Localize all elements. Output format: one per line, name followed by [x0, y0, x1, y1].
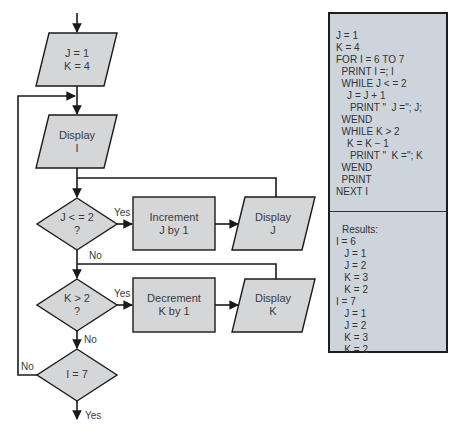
code-line: K = K − 1 [336, 138, 389, 149]
code-line: PRINT [336, 174, 372, 185]
result-line: K = 3 [336, 332, 368, 343]
code-line: NEXT I [336, 186, 368, 197]
edge-label-i-no: No [21, 361, 34, 372]
code-line: J = 1 [336, 30, 358, 41]
decision-k-label-line2: ? [47, 305, 107, 318]
increment-j-label-line1: Increment [133, 211, 215, 224]
init-label-line2: K = 4 [42, 60, 112, 73]
code-line: PRINT I =; I [336, 66, 394, 77]
init-label-line1: J = 1 [42, 47, 112, 60]
decision-j-label-line1: J < = 2 [47, 211, 107, 224]
code-line: WHILE J < = 2 [336, 78, 407, 89]
display-k-label: Display K [238, 292, 308, 318]
code-line: FOR I = 6 TO 7 [336, 54, 404, 65]
result-line: J = 1 [336, 308, 366, 319]
code-line: PRINT " J ="; J; [336, 102, 422, 113]
code-line: WHILE K > 2 [336, 126, 400, 137]
code-panel: J = 1 K = 4 FOR I = 6 TO 7 PRINT I =; I … [328, 12, 448, 353]
code-line: J = J + 1 [336, 90, 385, 101]
result-line: J = 2 [336, 320, 366, 331]
display-i-label: Display I [42, 129, 112, 155]
results-title: Results: [342, 224, 378, 235]
decrement-k-label-line1: Decrement [133, 292, 215, 305]
code-line: WEND [336, 114, 372, 125]
code-line: PRINT " K ="; K [336, 150, 423, 161]
display-i-label-line1: Display [42, 129, 112, 142]
decision-i-label-line1: I = 7 [47, 368, 107, 381]
init-label: J = 1 K = 4 [42, 47, 112, 73]
decrement-k-label-line2: K by 1 [133, 305, 215, 318]
edge-label-j-no: No [89, 250, 102, 261]
edge-label-k-no: No [84, 334, 97, 345]
code-line: K = 4 [336, 42, 360, 53]
decision-i-label: I = 7 [47, 368, 107, 381]
increment-j-label-line2: J by 1 [133, 224, 215, 237]
result-line: K = 2 [336, 284, 368, 295]
display-j-label-line1: Display [238, 211, 308, 224]
edge-label-k-yes: Yes [114, 288, 130, 299]
display-j-label: Display J [238, 211, 308, 237]
display-k-label-line2: K [238, 305, 308, 318]
results-output: Results: I = 6 J = 1 J = 2 K = 3 K = 2 I… [330, 211, 446, 352]
return-connector-j [77, 178, 276, 197]
result-line: I = 6 [336, 236, 356, 247]
decision-j-label-line2: ? [47, 224, 107, 237]
display-k-label-line1: Display [238, 292, 308, 305]
decision-k-label: K > 2 ? [47, 292, 107, 318]
edge-label-j-yes: Yes [114, 207, 130, 218]
code-listing: J = 1 K = 4 FOR I = 6 TO 7 PRINT I =; I … [330, 14, 446, 210]
decrement-k-label: Decrement K by 1 [133, 292, 215, 318]
result-line: K = 3 [336, 272, 368, 283]
decision-j-label: J < = 2 ? [47, 211, 107, 237]
result-line: I = 7 [336, 296, 356, 307]
decision-k-label-line1: K > 2 [47, 292, 107, 305]
result-line: K = 2 [336, 344, 368, 355]
result-line: J = 1 [336, 248, 366, 259]
result-line: J = 2 [336, 260, 366, 271]
increment-j-label: Increment J by 1 [133, 211, 215, 237]
edge-label-i-yes: Yes [85, 410, 101, 421]
code-line: WEND [336, 162, 372, 173]
display-i-label-line2: I [42, 142, 112, 155]
return-connector-k [77, 264, 276, 279]
display-j-label-line2: J [238, 224, 308, 237]
